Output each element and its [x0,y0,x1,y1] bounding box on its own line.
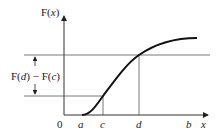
tick-d: d [136,118,142,130]
y-axis-label: F(x) [41,6,60,19]
cdf-curve [82,38,197,115]
tick-c: c [100,118,105,130]
tick-a: a [78,118,84,130]
difference-label: F(d) − F(c) [11,70,60,83]
tick-b: b [186,118,192,130]
origin-label: 0 [57,118,63,130]
x-axis-label: x [200,118,206,130]
cdf-diagram: F(x) F(d) − F(c) 0 a c d b x [0,0,218,135]
